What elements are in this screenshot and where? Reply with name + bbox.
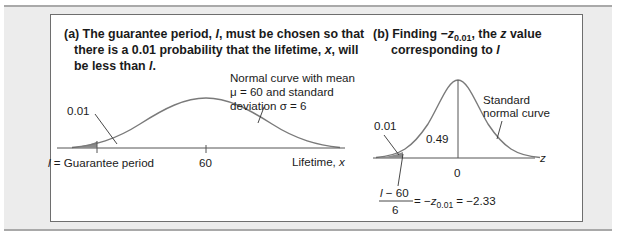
center-area-label: 0.49 [426, 132, 449, 145]
curve-label-line: μ = 60 and standard [230, 85, 334, 98]
svg-text:(b) Finding −z0.01, the z valu: (b) Finding −z0.01, the z value [373, 27, 542, 43]
caption-a-text: (a) The guarantee period, [64, 27, 215, 41]
panel-b-caption: (b) Finding −z0.01, the z value correspo… [373, 27, 542, 57]
caption-b-text: , the [471, 27, 500, 41]
curve-label-line: Normal curve with mean [230, 71, 355, 84]
z-equation: l − 60 6 = −z0.01 = −2.33 [379, 186, 496, 216]
svg-text:be less than l.: be less than l. [74, 59, 156, 73]
shaded-area-label: 0.01 [374, 119, 397, 132]
equation-result: = −2.33 [453, 194, 496, 207]
x-axis-label-var: x [338, 155, 346, 168]
caption-b-var-l: l [496, 43, 500, 57]
svg-text:there is a 0.01 probability th: there is a 0.01 probability that the lif… [74, 43, 358, 57]
caption-a-text: , must be chosen so that [219, 27, 364, 41]
panel-a-chart: 0.01 Normal curve with mean μ = 60 and s… [48, 71, 355, 169]
caption-b-subscript: 0.01 [454, 33, 472, 43]
svg-text:l − 60: l − 60 [380, 186, 409, 199]
guarantee-label: = Guarantee period [51, 156, 154, 169]
caption-a-text: be less than [74, 59, 149, 73]
caption-a-text: . [153, 59, 156, 73]
z-value-pointer [398, 154, 403, 186]
shaded-area-pointer [95, 114, 117, 144]
caption-a-text: , will [332, 43, 359, 57]
svg-text:Lifetime, x: Lifetime, x [292, 155, 346, 168]
equation-text: = − [414, 194, 431, 207]
shaded-area-label: 0.01 [67, 104, 90, 117]
equation-denominator: 6 [392, 203, 398, 216]
svg-text:(a) The guarantee period, l, m: (a) The guarantee period, l, must be cho… [64, 27, 364, 41]
panel-a-caption: (a) The guarantee period, l, must be cho… [64, 27, 364, 73]
caption-b-text: value [507, 27, 542, 41]
curve-label-line: normal curve [483, 106, 550, 119]
z-axis-label: z [539, 151, 546, 164]
svg-text:= −z0.01 = −2.33: = −z0.01 = −2.33 [414, 194, 496, 210]
curve-label-line: deviation σ = 6 [230, 99, 306, 112]
mean-tick-label: 60 [199, 156, 212, 169]
curve-label-line: Standard [483, 93, 530, 106]
figure-canvas: (a) The guarantee period, l, must be cho… [0, 0, 618, 235]
caption-b-text: corresponding to [391, 43, 496, 57]
caption-a-text: there is a 0.01 probability that the lif… [74, 43, 325, 57]
panel-b-chart: z 0 0.49 0.01 Standard normal curve l − … [373, 80, 550, 216]
equation-numerator: − 60 [383, 186, 409, 199]
curve-label-pointer [497, 121, 502, 139]
svg-text:corresponding to l: corresponding to l [391, 43, 500, 57]
caption-b-text: (b) Finding − [373, 27, 448, 41]
equation-subscript: 0.01 [437, 200, 454, 210]
x-axis-label: Lifetime, [292, 155, 339, 168]
svg-text:l = Guarantee period: l = Guarantee period [48, 156, 154, 169]
shaded-area-pointer [384, 135, 399, 155]
zero-tick-label: 0 [454, 166, 460, 179]
